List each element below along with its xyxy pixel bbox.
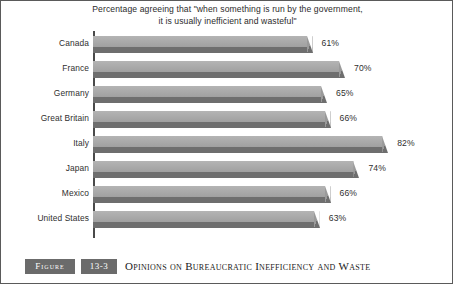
bar-shadow-edge — [93, 122, 331, 128]
bar-row: Italy82% — [1, 135, 453, 160]
bar — [93, 36, 313, 56]
category-label: France — [62, 63, 89, 73]
bar-row: Japan74% — [1, 160, 453, 185]
bar-shadow-edge — [93, 72, 345, 78]
bar-end-cap — [339, 61, 345, 78]
chart-title: Percentage agreeing that "when something… — [1, 4, 453, 27]
bar-end-cap — [321, 86, 327, 103]
category-label: United States — [37, 213, 89, 223]
bar-end-cap — [307, 36, 313, 53]
bar-row: Great Britain66% — [1, 110, 453, 135]
bar-row: France70% — [1, 60, 453, 85]
caption-figure-number: 13-3 — [81, 259, 117, 274]
bar-end-cap — [325, 186, 331, 203]
bar-row: Germany65% — [1, 85, 453, 110]
category-label: Mexico — [62, 188, 89, 198]
category-label: Germany — [54, 88, 89, 98]
bar — [93, 161, 359, 181]
value-label: 70% — [354, 63, 372, 73]
bar-face — [93, 211, 320, 222]
bar — [93, 86, 327, 106]
category-label: Great Britain — [41, 113, 89, 123]
category-label: Canada — [59, 38, 89, 48]
chart-title-line-1: Percentage agreeing that "when something… — [1, 4, 453, 16]
chart-title-line-2: it is usually inefficient and wasteful" — [1, 16, 453, 28]
bar-row: United States63% — [1, 210, 453, 235]
category-label: Japan — [66, 163, 89, 173]
bar-face — [93, 36, 313, 47]
bar-row: Mexico66% — [1, 185, 453, 210]
bar-row: Canada61% — [1, 35, 453, 60]
bar-face — [93, 111, 331, 122]
bar-end-cap — [325, 111, 331, 128]
caption-title-text: Opinions on Bureaucratic Inefficiency an… — [125, 259, 370, 274]
bar-end-cap — [314, 211, 320, 228]
bar-shadow-edge — [93, 222, 320, 228]
bar-shadow-edge — [93, 197, 331, 203]
value-label: 74% — [368, 163, 386, 173]
value-label: 66% — [340, 188, 358, 198]
bar-face — [93, 136, 388, 147]
caption-figure-word: Figure — [25, 259, 75, 274]
value-label: 65% — [336, 88, 354, 98]
value-label: 82% — [397, 138, 415, 148]
figure-caption: Figure 13-3 Opinions on Bureaucratic Ine… — [1, 259, 453, 275]
bar-shadow-edge — [93, 147, 388, 153]
bar-face — [93, 61, 345, 72]
bar-shadow-edge — [93, 172, 359, 178]
bar — [93, 61, 345, 81]
bar — [93, 211, 320, 231]
category-label: Italy — [73, 138, 89, 148]
bar — [93, 186, 331, 206]
bar — [93, 136, 388, 156]
plot-area: Canada61%France70%Germany65%Great Britai… — [1, 31, 453, 241]
bar-shadow-edge — [93, 47, 313, 53]
bar-face — [93, 186, 331, 197]
bar — [93, 111, 331, 131]
value-label: 61% — [322, 38, 340, 48]
bar-shadow-edge — [93, 97, 327, 103]
bar-face — [93, 86, 327, 97]
bar-face — [93, 161, 359, 172]
value-label: 63% — [329, 213, 347, 223]
value-label: 66% — [340, 113, 358, 123]
bar-end-cap — [353, 161, 359, 178]
figure-container: Percentage agreeing that "when something… — [0, 0, 453, 284]
bar-end-cap — [382, 136, 388, 153]
